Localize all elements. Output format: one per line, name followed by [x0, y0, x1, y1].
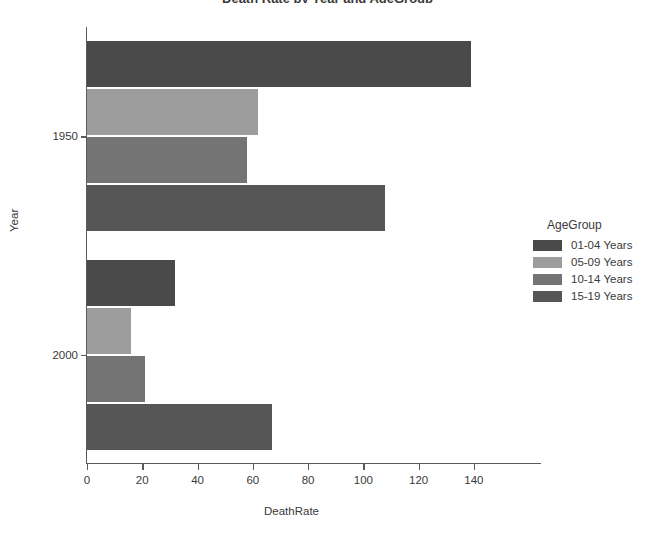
x-tick-label-80: 80	[302, 474, 315, 486]
legend-label: 10-14 Years	[571, 273, 632, 285]
legend-swatch-icon	[533, 257, 562, 268]
chart-title-clipped: Death Rate by Year and AgeGroup	[0, 0, 655, 3]
bar-1950-10-14-years	[87, 137, 247, 183]
legend-swatch-icon	[533, 274, 562, 285]
legend-item-01-04-years[interactable]: 01-04 Years	[533, 239, 651, 251]
x-tick-label-60: 60	[246, 474, 259, 486]
y-tick-label-1950: 1950	[52, 130, 78, 142]
bar-2000-15-19-years	[87, 404, 272, 450]
bar-chart: Death Rate by Year and AgeGroup 19502000…	[0, 0, 655, 547]
legend-title: AgeGroup	[547, 218, 651, 232]
x-tick-label-40: 40	[191, 474, 204, 486]
x-tick	[198, 464, 199, 470]
x-tick	[363, 464, 364, 470]
bar-1950-05-09-years	[87, 89, 258, 135]
x-tick	[142, 464, 143, 470]
x-tick	[474, 464, 475, 470]
bar-2000-01-04-years	[87, 260, 175, 306]
bar-2000-05-09-years	[87, 308, 131, 354]
legend-label: 15-19 Years	[571, 290, 632, 302]
x-tick	[253, 464, 254, 470]
bar-2000-10-14-years	[87, 356, 145, 402]
y-tick	[81, 136, 87, 137]
x-tick-label-0: 0	[84, 474, 90, 486]
y-tick-label-2000: 2000	[52, 349, 78, 361]
x-axis-title: DeathRate	[87, 505, 496, 517]
bar-1950-01-04-years	[87, 41, 471, 87]
legend-label: 05-09 Years	[571, 256, 632, 268]
legend: AgeGroup 01-04 Years05-09 Years10-14 Yea…	[533, 218, 651, 307]
legend-item-15-19-years[interactable]: 15-19 Years	[533, 290, 651, 302]
bar-1950-15-19-years	[87, 185, 385, 231]
plot-area: 19502000020406080100120140	[87, 27, 496, 464]
x-tick-label-100: 100	[354, 474, 373, 486]
x-tick	[87, 464, 88, 470]
x-tick-label-140: 140	[464, 474, 483, 486]
x-tick	[308, 464, 309, 470]
legend-label: 01-04 Years	[571, 239, 632, 251]
x-tick	[419, 464, 420, 470]
x-tick-label-20: 20	[136, 474, 149, 486]
legend-swatch-icon	[533, 291, 562, 302]
x-tick-label-120: 120	[409, 474, 428, 486]
y-axis-title: Year	[8, 209, 20, 232]
legend-item-10-14-years[interactable]: 10-14 Years	[533, 273, 651, 285]
y-tick	[81, 355, 87, 356]
legend-item-05-09-years[interactable]: 05-09 Years	[533, 256, 651, 268]
legend-swatch-icon	[533, 240, 562, 251]
